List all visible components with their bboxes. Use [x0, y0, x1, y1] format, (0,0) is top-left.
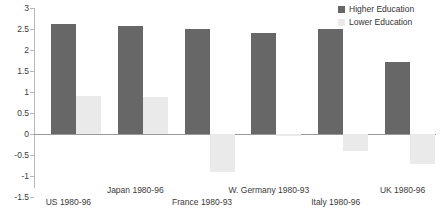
bar-lower-education	[276, 134, 301, 136]
y-axis-tick-mark	[30, 71, 34, 72]
bar-group	[302, 8, 369, 188]
y-axis-tick-label: 0	[24, 130, 29, 139]
y-axis-tick-mark	[30, 176, 34, 177]
y-axis-tick-label: 3	[24, 4, 29, 13]
y-axis-tick-label: 0.5	[17, 109, 29, 118]
bar-group	[369, 8, 436, 188]
bar-higher-education	[251, 33, 276, 134]
bar-higher-education	[318, 29, 343, 134]
y-axis-tick-mark	[30, 29, 34, 30]
bar-group	[102, 8, 169, 188]
bar-lower-education	[410, 134, 435, 164]
y-axis-tick-label: -1	[21, 172, 29, 181]
bar-lower-education	[76, 96, 101, 134]
x-axis-label: Japan 1980-96	[107, 185, 164, 195]
y-axis-tick-mark	[30, 197, 34, 198]
bar-groups	[35, 8, 436, 188]
y-axis-tick-mark	[30, 134, 34, 135]
bar-higher-education	[118, 26, 143, 134]
x-axis-label: W. Germany 1980-93	[229, 185, 310, 195]
x-axis-label: France 1980-93	[172, 197, 232, 207]
bar-group	[235, 8, 302, 188]
y-axis-tick-label: 2.5	[17, 25, 29, 34]
y-axis-tick-label: -0.5	[14, 151, 29, 160]
bar-lower-education	[343, 134, 368, 151]
y-axis-tick-mark	[30, 113, 34, 114]
y-axis-tick-mark	[30, 92, 34, 93]
bar-group	[169, 8, 236, 188]
y-axis-tick-mark	[30, 50, 34, 51]
x-axis-label: Italy 1980-96	[311, 197, 360, 207]
x-axis-label: UK 1980-96	[380, 185, 425, 195]
plot-area: 32.521.510.50-0.5-1-1.5	[34, 8, 436, 188]
bar-group	[35, 8, 102, 188]
y-axis-tick-label: 1	[24, 88, 29, 97]
y-axis-tick-mark	[30, 8, 34, 9]
bar-higher-education	[185, 29, 210, 134]
bar-higher-education	[385, 62, 410, 134]
bar-lower-education	[210, 134, 235, 172]
bar-higher-education	[51, 24, 76, 134]
bar-chart: Higher Education Lower Education 32.521.…	[0, 0, 446, 216]
x-axis-label: US 1980-96	[46, 197, 91, 207]
y-axis-tick-label: 1.5	[17, 67, 29, 76]
y-axis-tick-label: -1.5	[14, 193, 29, 202]
y-axis-tick-label: 2	[24, 46, 29, 55]
bar-lower-education	[143, 97, 168, 134]
y-axis-tick-mark	[30, 155, 34, 156]
